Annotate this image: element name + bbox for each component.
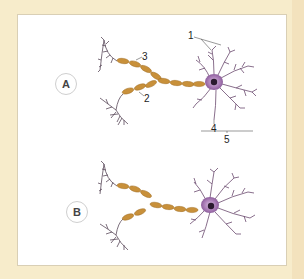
neuron-b bbox=[98, 161, 255, 250]
nucleus-a bbox=[211, 79, 217, 85]
axon-terminal-top-b bbox=[98, 161, 117, 194]
dendrites-b bbox=[190, 168, 255, 238]
myelin-sheath-upper-b bbox=[117, 183, 153, 200]
myelin-sheath-main-a bbox=[158, 78, 205, 87]
myelin-sheath-upper-a bbox=[117, 58, 163, 82]
nucleus-b bbox=[208, 203, 214, 209]
neuron-diagrams bbox=[0, 0, 304, 279]
label-2: 2 bbox=[144, 94, 150, 104]
axon-terminal-bottom-b bbox=[100, 219, 128, 250]
label-3: 3 bbox=[142, 52, 148, 62]
axon-terminal-top-a bbox=[98, 37, 117, 72]
panel-badge-a: A bbox=[55, 73, 77, 95]
axon-terminal-bottom-a bbox=[100, 94, 128, 125]
panel-badge-b: B bbox=[66, 201, 88, 223]
myelin-sheath-lower-a bbox=[121, 79, 157, 95]
label-1: 1 bbox=[188, 31, 194, 41]
label-5: 5 bbox=[224, 135, 230, 145]
myelin-sheath-lower-b bbox=[121, 207, 146, 221]
myelin-sheath-main-b bbox=[150, 201, 198, 212]
label-4: 4 bbox=[211, 124, 217, 134]
neuron-a bbox=[98, 37, 257, 133]
